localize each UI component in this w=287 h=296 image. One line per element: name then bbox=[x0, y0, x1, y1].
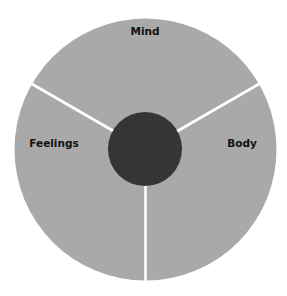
mind-body-feelings-diagram: Mind Feelings Body bbox=[0, 0, 287, 296]
segment-label-feelings: Feelings bbox=[29, 137, 78, 149]
segment-label-body: Body bbox=[227, 137, 257, 149]
segment-label-mind: Mind bbox=[130, 25, 159, 37]
center-circle bbox=[108, 112, 182, 186]
